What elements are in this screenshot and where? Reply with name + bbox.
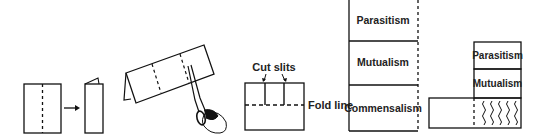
parasitism-flap-label-2: Parasitism (472, 50, 523, 61)
commensalism-flap-label: Commensalism (344, 102, 422, 114)
step-1-sheet (24, 84, 61, 133)
step-6-booklet-open: Parasitism Mutualism (429, 42, 523, 128)
parasitism-flap-label: Parasitism (356, 14, 409, 26)
wavy-lines-icon (483, 101, 518, 125)
step-3-tent-cut (124, 45, 214, 103)
step-2-folded-sheet (85, 78, 103, 133)
cut-slits-label: Cut slits (252, 61, 295, 73)
step-4-slits: Cut slits Fold line (245, 61, 353, 130)
step-5-booklet: Parasitism Mutualism Commensalism (344, 0, 422, 131)
mutualism-flap-label: Mutualism (357, 56, 409, 68)
arrow-right-icon (64, 105, 80, 111)
foldable-diagram: Cut slits Fold line Parasitism Mutualism… (0, 0, 541, 139)
mutualism-flap-label-2: Mutualism (473, 78, 523, 89)
